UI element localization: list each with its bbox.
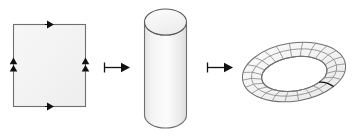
- stage-square: [10, 21, 90, 111]
- square-face: [14, 25, 86, 107]
- cylinder-top-cap: [145, 9, 187, 35]
- stage-cylinder: [145, 9, 187, 128]
- cylinder-body: [145, 22, 187, 128]
- mapsto-arrow-1-icon: [105, 63, 131, 73]
- mapsto-arrow-2-icon: [208, 63, 234, 73]
- figure-canvas: [0, 0, 356, 138]
- torus-outer-surface: [238, 35, 350, 109]
- torus-construction-figure: Construction of a torus from a square by…: [0, 0, 356, 138]
- stage-torus: [238, 35, 350, 109]
